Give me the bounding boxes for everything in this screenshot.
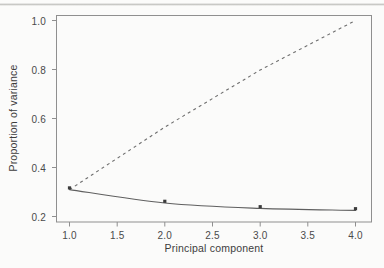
plot-canvas [0,0,384,268]
plot-frame [57,16,372,223]
y-tick-label: 0.2 [22,211,46,222]
data-point-marker [68,186,71,189]
x-tick-label: 1.5 [110,230,125,241]
series-cumulative-line [70,21,356,190]
y-tick-label: 0.6 [22,113,46,124]
series-proportion-line [70,190,356,211]
y-axis-title: Proportion of variance [7,64,19,171]
x-tick-label: 4.0 [348,230,363,241]
x-tick-label: 3.0 [253,230,268,241]
x-tick-label: 1.0 [62,230,77,241]
data-point-marker [354,207,357,210]
chart-figure: 1.0 0.8 0.6 0.4 0.2 1.0 1.5 2.0 2.5 3.0 … [0,0,384,268]
data-point-marker [259,205,262,208]
y-tick-label: 0.8 [22,64,46,75]
y-axis-ticks [52,21,57,217]
y-tick-label: 1.0 [22,15,46,26]
x-axis-title: Principal component [165,242,264,254]
x-tick-label: 3.5 [301,230,316,241]
x-tick-label: 2.0 [158,230,173,241]
y-tick-label: 0.4 [22,162,46,173]
x-tick-label: 2.5 [205,230,220,241]
data-point-marker [163,200,166,203]
x-axis-ticks [70,222,356,227]
